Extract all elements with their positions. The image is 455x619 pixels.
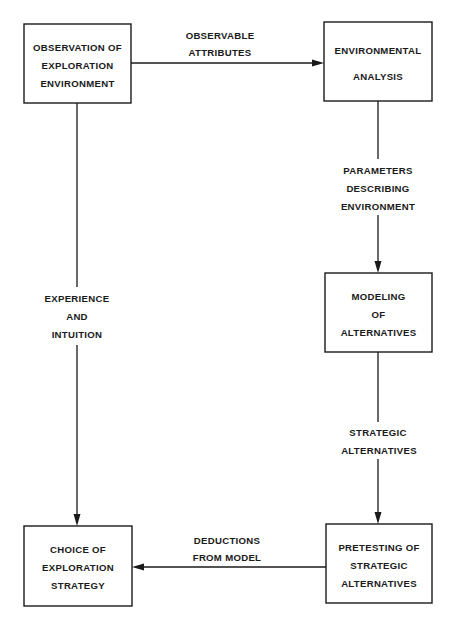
edge-label-line: INTUITION [52,329,103,340]
edge-observable-attributes: OBSERVABLE ATTRIBUTES [131,30,324,67]
arrow-down-icon [375,512,382,524]
edge-strategic-alternatives: STRATEGIC ALTERNATIVES [341,352,417,524]
flowchart-diagram: OBSERVATION OF EXPLORATION ENVIRONMENT E… [0,0,455,619]
node-pretesting-of-strategic-alternatives: PRETESTING OF STRATEGIC ALTERNATIVES [326,524,432,603]
edge-label-line: ENVIRONMENT [341,201,415,212]
arrow-down-icon [74,514,81,526]
edge-label-line: STRATEGIC [349,427,406,438]
node-label-line: ENVIRONMENT [40,78,114,89]
node-environmental-analysis: ENVIRONMENTAL ANALYSIS [324,22,432,101]
edge-experience-and-intuition: EXPERIENCE AND INTUITION [45,103,110,526]
edge-label-line: OBSERVABLE [186,30,255,41]
node-label-line: EXPLORATION [42,562,114,573]
edge-label-line: DESCRIBING [346,183,409,194]
edge-parameters-describing-environment: PARAMETERS DESCRIBING ENVIRONMENT [341,101,415,273]
edge-label-line: FROM MODEL [193,552,262,563]
edge-label-line: ATTRIBUTES [188,47,251,58]
node-label-line: OBSERVATION OF [33,42,122,53]
edge-label-line: ALTERNATIVES [341,445,417,456]
node-label-line: STRATEGY [51,580,105,591]
node-label-line: ALTERNATIVES [341,578,417,589]
node-observation-of-exploration-environment: OBSERVATION OF EXPLORATION ENVIRONMENT [24,24,131,103]
node-label-line: PRETESTING OF [338,542,419,553]
edge-label-line: PARAMETERS [343,165,413,176]
edge-label-line: EXPERIENCE [45,293,110,304]
edge-deductions-from-model: DEDUCTIONS FROM MODEL [132,535,326,571]
arrow-down-icon [375,261,382,273]
node-label-line: ANALYSIS [353,71,403,82]
node-label-line: ENVIRONMENTAL [335,45,422,56]
node-choice-of-exploration-strategy: CHOICE OF EXPLORATION STRATEGY [24,526,132,606]
node-label-line: EXPLORATION [42,60,114,71]
edge-label-line: AND [66,311,88,322]
node-modeling-of-alternatives: MODELING OF ALTERNATIVES [325,273,432,352]
arrow-left-icon [132,564,144,571]
arrow-right-icon [312,60,324,67]
node-label-line: MODELING [351,291,405,302]
edge-label-line: DEDUCTIONS [194,535,261,546]
node-label-line: OF [372,309,386,320]
node-label-line: CHOICE OF [50,544,106,555]
node-label-line: ALTERNATIVES [341,327,417,338]
node-label-line: STRATEGIC [350,560,407,571]
